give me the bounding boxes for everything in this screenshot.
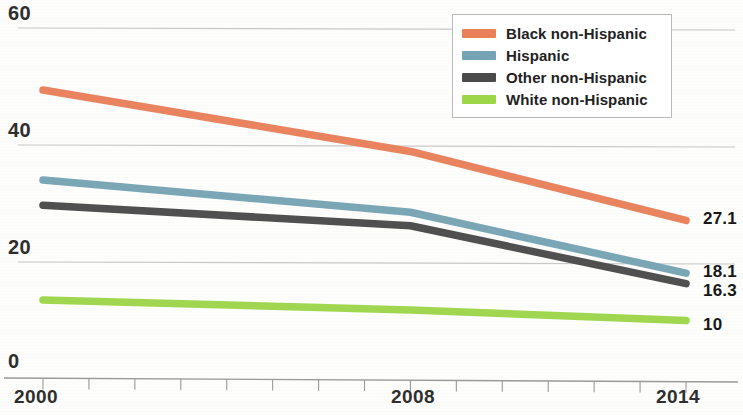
legend-color-swatch-icon <box>462 73 496 82</box>
series-end-value: 10 <box>703 315 722 335</box>
legend-color-swatch-icon <box>462 29 496 38</box>
legend-item-label: White non-Hispanic <box>506 91 648 108</box>
legend-item[interactable]: Other non-Hispanic <box>462 66 663 88</box>
series-line-2 <box>43 205 686 283</box>
series-lines <box>43 90 686 320</box>
y-tick-label: 0 <box>8 350 20 373</box>
series-line-3 <box>43 300 686 320</box>
series-end-value: 18.1 <box>703 262 737 282</box>
legend-item[interactable]: Hispanic <box>462 44 663 66</box>
chart-legend: Black non-HispanicHispanicOther non-Hisp… <box>452 14 672 118</box>
legend-color-swatch-icon <box>462 51 496 60</box>
legend-item-label: Black non-Hispanic <box>506 25 647 42</box>
series-end-value: 27.1 <box>703 209 737 229</box>
x-tick-label: 2008 <box>391 386 435 408</box>
y-tick-label: 20 <box>8 236 31 259</box>
legend-color-swatch-icon <box>462 95 496 104</box>
legend-item-label: Other non-Hispanic <box>506 69 647 86</box>
x-tick-label: 2014 <box>656 386 700 408</box>
x-axis-line <box>4 378 738 382</box>
x-axis <box>4 378 738 393</box>
chart-container: 6040200 200020082014 27.118.116.310 Blac… <box>0 0 743 415</box>
series-end-value: 16.3 <box>703 281 737 301</box>
legend-item[interactable]: Black non-Hispanic <box>462 22 663 44</box>
legend-item[interactable]: White non-Hispanic <box>462 88 663 110</box>
y-tick-label: 60 <box>8 2 31 25</box>
y-tick-label: 40 <box>8 119 31 142</box>
legend-item-label: Hispanic <box>506 47 569 64</box>
x-tick-label: 2000 <box>14 386 58 408</box>
